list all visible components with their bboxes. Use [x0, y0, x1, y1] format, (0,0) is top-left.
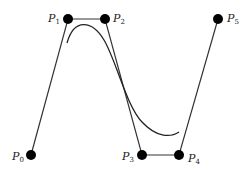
- bezier-curve: [67, 25, 179, 136]
- label-p5: P5: [226, 12, 239, 26]
- point-labels: P0 P1 P2 P3 P4 P5: [11, 12, 239, 166]
- bezier-diagram: P0 P1 P2 P3 P4 P5: [0, 0, 250, 170]
- point-p3: [137, 150, 147, 160]
- control-polygon: [31, 19, 218, 155]
- point-p1: [63, 14, 73, 24]
- point-p4: [174, 150, 184, 160]
- label-p2: P2: [112, 12, 125, 26]
- point-p0: [26, 150, 36, 160]
- point-p5: [213, 14, 223, 24]
- label-p0: P0: [11, 150, 24, 164]
- point-p2: [100, 14, 110, 24]
- label-p4: P4: [187, 152, 200, 166]
- label-p1: P1: [47, 12, 60, 26]
- control-points: [26, 14, 223, 160]
- label-p3: P3: [121, 150, 134, 164]
